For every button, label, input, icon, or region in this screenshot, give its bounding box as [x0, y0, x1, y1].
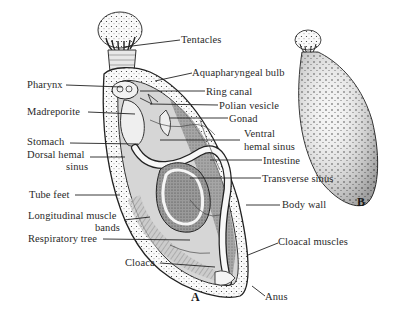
label-tentacles: Tentacles	[181, 34, 221, 45]
label-cloacal-muscles: Cloacal muscles	[278, 236, 348, 247]
label-ventral-hemal-sinus-line2: hemal sinus	[244, 141, 295, 152]
label-longitudinal-muscle-bands-line1: Longitudinal muscle	[28, 210, 117, 221]
label-pharynx: Pharynx	[27, 79, 63, 90]
label-dorsal-hemal-sinus-line2: sinus	[66, 161, 88, 172]
sea-cucumber-anatomy-diagram: Tentacles Aquapharyngeal bulb Ring canal…	[0, 0, 414, 319]
panel-label-b: B	[357, 195, 365, 210]
label-body-wall: Body wall	[282, 199, 326, 210]
label-anus: Anus	[265, 291, 288, 302]
label-respiratory-tree: Respiratory tree	[28, 233, 97, 244]
label-ring-canal: Ring canal	[206, 86, 252, 97]
label-stomach: Stomach	[27, 136, 64, 147]
label-madreporite: Madreporite	[27, 106, 80, 117]
label-intestine: Intestine	[263, 155, 300, 166]
tentacle-crown	[98, 12, 142, 53]
label-dorsal-hemal-sinus-line1: Dorsal hemal	[27, 149, 84, 160]
label-ventral-hemal-sinus-line1: Ventral	[244, 128, 275, 139]
label-longitudinal-muscle-bands-line2: bands	[95, 222, 120, 233]
panel-label-a: A	[191, 290, 200, 305]
specimen-a	[98, 12, 248, 297]
label-aquapharyngeal-bulb: Aquapharyngeal bulb	[192, 67, 285, 78]
label-tube-feet: Tube feet	[29, 189, 69, 200]
label-transverse-sinus: Transverse sinus	[262, 173, 334, 184]
label-polian-vesicle: Polian vesicle	[219, 100, 279, 111]
label-gonad: Gonad	[229, 113, 258, 124]
label-cloaca: Cloaca	[125, 257, 155, 268]
